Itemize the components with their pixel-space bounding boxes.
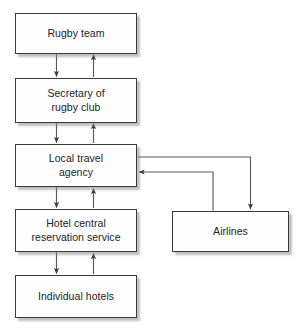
- edge-airlines-to-local-travel: [139, 172, 213, 211]
- node-airlines-label: Airlines: [209, 225, 252, 239]
- node-individual-hotels[interactable]: Individual hotels: [15, 275, 137, 318]
- node-secretary-of-rugby-club-label: Secretary of rugby club: [43, 87, 108, 114]
- node-secretary-of-rugby-club[interactable]: Secretary of rugby club: [15, 78, 137, 123]
- node-individual-hotels-label: Individual hotels: [34, 290, 118, 304]
- node-airlines[interactable]: Airlines: [172, 211, 289, 252]
- node-hotel-central-reservation-service-label: Hotel central reservation service: [27, 217, 124, 244]
- flow-diagram: Rugby team Secretary of rugby club Local…: [0, 0, 305, 335]
- node-local-travel-agency-label: Local travel agency: [45, 152, 107, 179]
- node-hotel-central-reservation-service[interactable]: Hotel central reservation service: [15, 209, 137, 252]
- node-local-travel-agency[interactable]: Local travel agency: [15, 144, 137, 187]
- node-rugby-team[interactable]: Rugby team: [15, 13, 137, 54]
- edge-local-travel-to-airlines: [138, 157, 251, 209]
- node-rugby-team-label: Rugby team: [43, 27, 108, 41]
